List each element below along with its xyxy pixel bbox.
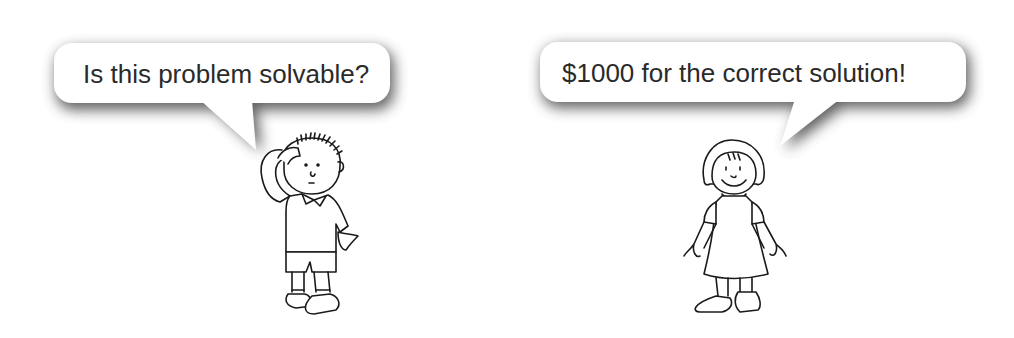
boy-head — [284, 138, 340, 194]
boy-eye-left — [304, 163, 308, 167]
girl-character — [684, 140, 786, 312]
boy-speech-text: Is this problem solvable? — [83, 61, 369, 87]
girl-shoe-left — [695, 296, 731, 312]
boy-legs — [292, 272, 330, 292]
boy-hand-right — [338, 232, 358, 250]
boy-shorts — [286, 252, 336, 272]
cartoon-scene — [0, 0, 1014, 338]
boy-shoe-right — [305, 294, 338, 314]
girl-shoe-right — [735, 292, 760, 312]
boy-character — [261, 133, 358, 314]
boy-eye-right — [316, 163, 320, 167]
girl-speech-text: $1000 for the correct solution! — [562, 60, 906, 86]
